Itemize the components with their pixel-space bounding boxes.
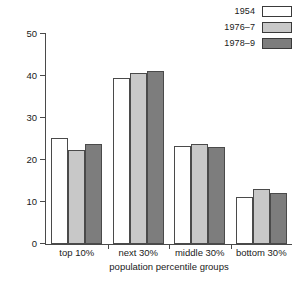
legend-item: 1976–7 [196,20,292,35]
bar-group [236,34,287,244]
y-tick: 40 [40,75,46,76]
legend-label: 1976–7 [224,23,255,32]
y-axis-line [45,34,46,245]
x-tick [231,245,232,249]
bar [253,189,270,244]
x-axis-title: population percentile groups [46,262,292,272]
y-tick-label: 30 [26,113,37,123]
y-tick-label: 50 [26,29,37,39]
bar [113,78,130,244]
bar-group [174,34,225,244]
bar [85,144,102,244]
bar [191,144,208,244]
bar [236,197,253,244]
y-tick: 30 [40,117,46,118]
plot-area: 01020304050 top 10%next 30%middle 30%bot… [46,34,292,244]
y-tick: 50 [40,33,46,34]
bar-group [113,34,164,244]
bar-group [51,34,102,244]
bar-chart: 1954 1976–7 1978–9 01020304050 top 10%ne… [0,0,297,282]
bar [174,146,191,244]
bar [208,147,225,244]
x-tick-label: middle 30% [175,248,225,258]
bar [51,138,68,244]
x-tick [108,245,109,249]
legend-item: 1954 [196,4,292,19]
y-tick-label: 40 [26,71,37,81]
y-tick-label: 10 [26,197,37,207]
x-tick [169,245,170,249]
x-tick-label: next 30% [118,248,158,258]
y-tick-label: 20 [26,155,37,165]
legend-swatch-1976-7 [262,22,292,33]
bar [147,71,164,244]
x-tick-label: bottom 30% [236,248,287,258]
y-tick-label: 0 [32,239,37,249]
y-tick: 0 [40,243,46,244]
x-tick-label: top 10% [59,248,94,258]
bar [68,150,85,244]
bar [270,193,287,244]
bar [130,73,147,244]
y-tick: 10 [40,201,46,202]
legend-label: 1954 [235,7,255,16]
y-tick: 20 [40,159,46,160]
legend-swatch-1954 [262,6,292,17]
